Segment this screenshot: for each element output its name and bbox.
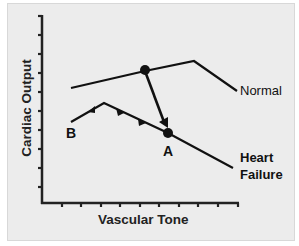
shift-arrow bbox=[145, 71, 168, 128]
point-normal-marker bbox=[140, 65, 150, 75]
heart-failure-curve bbox=[71, 103, 233, 168]
heart-failure-label-line1: Heart bbox=[240, 149, 283, 166]
direction-arrowheads bbox=[88, 106, 146, 126]
diagram-canvas bbox=[0, 0, 299, 246]
point-a-label: A bbox=[163, 143, 173, 159]
heart-failure-curve-label: Heart Failure bbox=[240, 149, 283, 183]
arrowhead-icon bbox=[88, 106, 95, 113]
point-b-label: B bbox=[66, 125, 76, 141]
normal-curve-label: Normal bbox=[240, 83, 282, 98]
point-a-marker bbox=[163, 128, 173, 138]
heart-failure-label-line2: Failure bbox=[240, 166, 283, 183]
y-axis-label-text: Cardiac Output bbox=[19, 59, 34, 157]
x-axis-label: Vascular Tone bbox=[98, 212, 189, 227]
normal-curve bbox=[71, 61, 237, 91]
